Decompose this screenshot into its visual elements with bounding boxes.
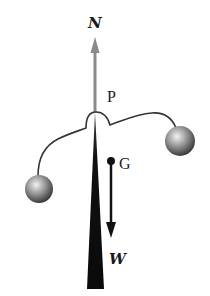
stand-wedge [87, 112, 104, 289]
label-normal-force: N [87, 14, 103, 32]
label-pivot: P [107, 88, 116, 105]
weight-arrow [106, 162, 116, 238]
left-ball [25, 175, 53, 203]
balancing-toy-diagram: N P G W [0, 0, 210, 296]
wire [38, 112, 176, 176]
arrowhead-up-icon [91, 37, 100, 53]
right-ball [165, 126, 195, 156]
center-of-gravity-dot [107, 157, 115, 165]
normal-force-arrow [91, 37, 100, 112]
label-center-of-gravity: G [119, 155, 131, 172]
label-weight: W [109, 250, 128, 268]
arrowhead-down-icon [106, 222, 116, 238]
